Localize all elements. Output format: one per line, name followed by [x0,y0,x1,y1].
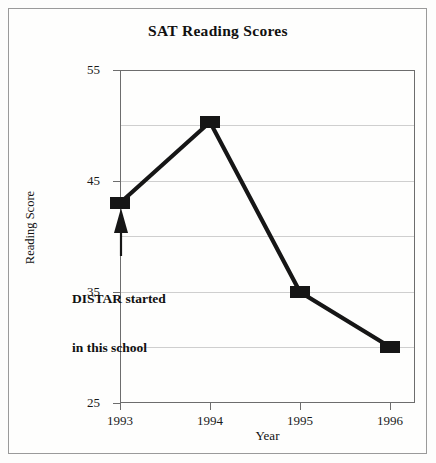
y-tick-label-45: 45 [58,173,100,189]
y-tick-label-55: 55 [58,62,100,78]
x-tick-mark-1996 [390,403,391,410]
y-tick-label-25: 25 [58,395,100,411]
x-tick-mark-1995 [300,403,301,410]
y-tick-mark-45 [113,181,120,182]
y-tick-mark-25 [113,403,120,404]
data-point-1994 [200,116,220,128]
x-tick-label-1993: 1993 [90,413,150,429]
x-tick-mark-1994 [210,403,211,410]
x-tick-label-1994: 1994 [180,413,240,429]
x-tick-label-1995: 1995 [270,413,330,429]
data-point-1996 [380,341,400,353]
x-axis-title: Year [120,428,415,444]
y-tick-mark-55 [113,70,120,71]
annotation-line-2: in this school [72,340,166,356]
annotation-distar: DISTAR started in this school [72,258,166,390]
data-point-1993 [110,197,130,209]
y-axis-title: Reading Score [23,168,38,288]
x-tick-mark-1993 [120,403,121,410]
chart-figure: SAT Reading Scores 55 45 35 25 Reading S… [0,0,436,463]
data-point-1995 [290,286,310,298]
annotation-line-1: DISTAR started [72,291,166,307]
x-tick-label-1996: 1996 [360,413,420,429]
chart-title: SAT Reading Scores [0,22,436,40]
